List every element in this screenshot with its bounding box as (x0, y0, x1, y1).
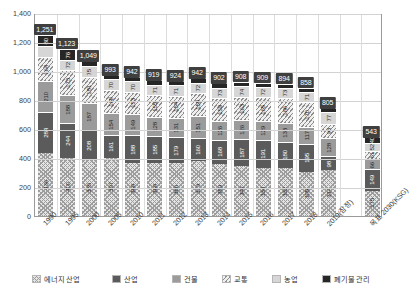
segment-value-label: 155 (152, 102, 158, 112)
segment-value-label: 159 (217, 105, 223, 115)
bar-segment: 168 (212, 140, 227, 164)
legend-item[interactable]: 건물 (172, 274, 198, 284)
segment-value-label: 70 (108, 82, 114, 88)
bar-segment: 284 (38, 112, 53, 153)
gridline (35, 188, 381, 189)
bar-segment: 166 (278, 98, 293, 122)
bar-segment: 195 (299, 144, 314, 172)
segment-value-label: 149 (130, 120, 136, 130)
legend-swatch-icon (322, 275, 331, 283)
segment-value-label: 314 (326, 188, 332, 198)
legend-item[interactable]: 에너지 산업 (32, 274, 80, 284)
segment-value-label: 149 (369, 175, 375, 185)
segment-value-label: 187 (86, 112, 92, 122)
bar-total-label: 924 (167, 70, 183, 82)
bar-segment: 73 (212, 88, 227, 99)
segment-value-label: 73 (217, 90, 223, 96)
segment-value-label: 98 (326, 161, 332, 167)
bar-column[interactable]: 35916812615973 (212, 83, 227, 216)
bar-column[interactable]: 30519511717071 (299, 88, 314, 216)
bar-column[interactable]: 33218013316673 (278, 84, 293, 216)
bar-column[interactable]: 4002441881737276 (60, 49, 75, 216)
bar-column[interactable]: 39716115416070 (104, 75, 119, 216)
bar-segment: 77 (321, 112, 336, 123)
bar-segment: 70 (104, 79, 119, 89)
bar-segment: 149 (125, 114, 140, 136)
bar-segment: 158 (191, 93, 206, 116)
bar-segment: 66 (365, 159, 380, 169)
segment-value-label: 179 (173, 146, 179, 156)
y-axis-tick-label: 200 (0, 184, 31, 191)
bar-segment: 155 (147, 95, 162, 117)
segment-value-label: 98 (326, 128, 332, 134)
segment-value-label: 129 (260, 126, 266, 136)
bar-segment: 133 (278, 123, 293, 142)
segment-value-label: 368 (152, 184, 158, 194)
chart-legend: 에너지 산업산업건물교통농업폐기물 관리 (0, 272, 393, 290)
y-axis-tick-label: 800 (0, 97, 31, 104)
legend-label: 산업 (124, 274, 138, 284)
legend-item[interactable]: 교통 (222, 274, 248, 284)
bar-total-label: 805 (319, 97, 335, 109)
segment-value-label: 244 (65, 136, 71, 146)
segment-value-label: 208 (86, 141, 92, 151)
bar-total-label: 894 (276, 73, 292, 85)
bar-segment: 368 (125, 163, 140, 216)
bar-segment: 366 (169, 163, 184, 216)
bar-segment: 368 (147, 163, 162, 216)
bar-column[interactable]: 33419112916572 (256, 83, 271, 216)
legend-item[interactable]: 폐기물 관리 (322, 274, 370, 284)
bar-total-label: 902 (211, 72, 227, 84)
segment-value-label: 153 (130, 98, 136, 108)
bar-column[interactable]: 37916015115872 (191, 78, 206, 216)
gridline (35, 43, 381, 44)
bar-segment: 72 (256, 87, 271, 97)
segment-value-label: 366 (173, 185, 179, 195)
segment-value-label: 71 (304, 94, 310, 100)
bar-total-label: 919 (145, 69, 161, 81)
bar-segment: 72 (60, 60, 75, 70)
segment-value-label: 66 (369, 162, 375, 168)
vertical-gridline (144, 15, 145, 216)
segment-value-label: 175 (369, 198, 375, 208)
bar-segment: 208 (82, 130, 97, 160)
bar-segment: 187 (234, 139, 249, 166)
y-axis-tick-label: 1,400 (0, 10, 31, 17)
bar-segment: 76 (60, 49, 75, 60)
gridline (35, 72, 381, 73)
segment-value-label: 359 (217, 185, 223, 195)
bar-segment: 70 (125, 81, 140, 91)
bar-segment: 436 (38, 153, 53, 216)
segment-value-label: 163 (239, 104, 245, 114)
bar-segment (234, 82, 249, 86)
legend-swatch-icon (222, 275, 231, 283)
bar-segment: 164 (38, 57, 53, 81)
segment-value-label: 71 (152, 87, 158, 93)
bar-segment (125, 77, 140, 81)
legend-item[interactable]: 산업 (112, 274, 138, 284)
bar-column[interactable]: 314981289877 (321, 108, 336, 216)
segment-value-label: 77 (326, 115, 332, 121)
bar-segment: 173 (60, 70, 75, 95)
vertical-gridline (122, 15, 123, 216)
vertical-gridline (296, 15, 297, 216)
bar-segment: 244 (60, 123, 75, 158)
vertical-gridline (79, 15, 80, 216)
legend-swatch-icon (172, 275, 181, 283)
bar-segment: 71 (147, 85, 162, 95)
segment-value-label: 72 (195, 85, 201, 91)
bars-container: 4362842101648040024418817372763852081871… (35, 15, 381, 216)
bar-segment: 40 (365, 137, 380, 143)
bar-column[interactable]: 38520818718175 (82, 61, 97, 216)
bar-column[interactable]: 36818814915370 (125, 77, 140, 216)
segment-value-label: 161 (108, 142, 114, 152)
segment-value-label: 128 (326, 143, 332, 153)
y-axis-tick-label: 400 (0, 155, 31, 162)
segment-value-label: 168 (217, 147, 223, 157)
bar-total-label: 942 (189, 67, 205, 79)
segment-value-label: 52 (369, 144, 375, 150)
bar-column[interactable]: 17514966615240 (365, 137, 380, 216)
segment-value-label: 188 (65, 105, 71, 115)
bar-segment: 347 (234, 166, 249, 216)
legend-item[interactable]: 농업 (272, 274, 298, 284)
